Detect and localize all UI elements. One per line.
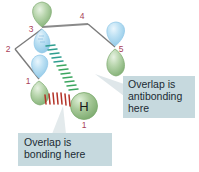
callout-antibonding-line-3: here — [128, 103, 191, 115]
callout-antibonding: Overlap is antibonding here — [123, 76, 195, 118]
atom-label-3: 3 — [29, 24, 34, 34]
callout-antibonding-line-2: antibonding — [128, 91, 191, 103]
callout-bonding: Overlap is bonding here — [18, 133, 112, 166]
antibonding-overlap-hatch — [46, 45, 78, 90]
callout-bonding-line-1: Overlap is — [24, 137, 108, 149]
atom-label-1-bottom: 1 — [82, 120, 87, 130]
callout-bonding-line-2: bonding here — [24, 149, 108, 161]
atom-label-2: 2 — [6, 44, 11, 54]
figure-canvas: H 3 4 2 5 1 1 Overlap is antibonding her… — [0, 0, 199, 172]
atom-label-5: 5 — [119, 44, 124, 54]
bonding-overlap-hatch — [45, 93, 70, 106]
atom-label-1-top: 1 — [26, 76, 31, 86]
atom-label-4: 4 — [80, 11, 85, 21]
hydrogen-symbol: H — [79, 99, 88, 114]
callout-pointer-bonding — [52, 106, 66, 134]
callout-antibonding-line-1: Overlap is — [128, 79, 191, 91]
callout-pointer-antibonding — [95, 74, 124, 96]
